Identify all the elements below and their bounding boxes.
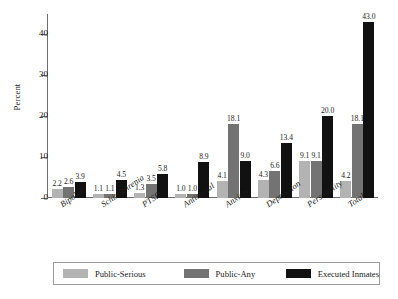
- y-axis-title: Percent: [12, 62, 22, 132]
- bar-value-label: 3.5: [146, 175, 156, 183]
- bar-value-label: 13.4: [280, 134, 293, 142]
- legend-swatch: [63, 269, 88, 278]
- bar-value-label: 9.1: [300, 152, 310, 160]
- bar-value-label: 8.9: [199, 153, 209, 161]
- y-tick-label: 20: [22, 111, 48, 120]
- legend-entry: Executed Inmates: [277, 263, 379, 284]
- bar-value-label: 1.0: [176, 185, 186, 193]
- bar-value-label: 1.1: [94, 185, 104, 193]
- legend-label: Public-Any: [216, 269, 256, 279]
- bar: 18.1: [228, 124, 239, 198]
- y-tick-label: 40: [22, 29, 48, 38]
- bar-value-label: 5.8: [158, 165, 168, 173]
- bar-group: 1.11.14.5: [89, 14, 130, 198]
- y-tick: 30: [0, 75, 48, 76]
- chart-legend: Public-SeriousPublic-AnyExecuted Inmates: [53, 262, 380, 285]
- bar-group: 4.36.613.4: [254, 14, 295, 198]
- legend-entry: Public-Serious: [54, 263, 175, 284]
- bar: 43.0: [363, 22, 374, 198]
- bar-value-label: 9.1: [311, 152, 321, 160]
- bar-value-label: 18.1: [351, 115, 364, 123]
- bar-value-label: 4.2: [341, 172, 351, 180]
- bar-group: 1.01.08.9: [172, 14, 213, 198]
- legend-swatch: [286, 269, 311, 278]
- bar-group: 1.33.55.8: [131, 14, 172, 198]
- bar-group: 4.118.19.0: [213, 14, 254, 198]
- y-tick: 40: [0, 34, 48, 35]
- legend-label: Public-Serious: [95, 269, 146, 279]
- bar-value-label: 18.1: [227, 115, 240, 123]
- legend-entry: Public-Any: [175, 263, 277, 284]
- y-tick: 10: [0, 157, 48, 158]
- bar: 4.1: [217, 181, 228, 198]
- bar-value-label: 4.3: [259, 171, 269, 179]
- bar-value-label: 20.0: [321, 107, 334, 115]
- bar-value-label: 2.2: [52, 180, 62, 188]
- bar-chart-figure: Percent 010203040 2.22.63.91.11.14.51.33…: [0, 0, 398, 299]
- bar-value-label: 4.5: [117, 171, 127, 179]
- bar-group: 9.19.120.0: [296, 14, 337, 198]
- bar-value-label: 9.0: [240, 152, 250, 160]
- y-tick: 20: [0, 116, 48, 117]
- y-tick-label: 0: [22, 193, 48, 202]
- bar-value-label: 2.6: [64, 178, 74, 186]
- bar: 2.2: [52, 189, 63, 198]
- y-tick: 0: [0, 198, 48, 199]
- bar-value-label: 6.6: [270, 162, 280, 170]
- bar-group: 4.218.143.0: [337, 14, 378, 198]
- y-tick-label: 10: [22, 152, 48, 161]
- legend-label: Executed Inmates: [318, 269, 379, 279]
- y-tick-label: 30: [22, 70, 48, 79]
- bar: 18.1: [352, 124, 363, 198]
- bar-group: 2.22.63.9: [48, 14, 89, 198]
- legend-swatch: [184, 269, 209, 278]
- bar: 4.3: [258, 180, 269, 198]
- bar-value-label: 43.0: [362, 13, 375, 21]
- bar: 9.1: [299, 161, 310, 198]
- plot-area: 2.22.63.91.11.14.51.33.55.81.01.08.94.11…: [48, 14, 378, 198]
- bar-value-label: 3.9: [75, 173, 85, 181]
- bar-value-label: 4.1: [217, 172, 227, 180]
